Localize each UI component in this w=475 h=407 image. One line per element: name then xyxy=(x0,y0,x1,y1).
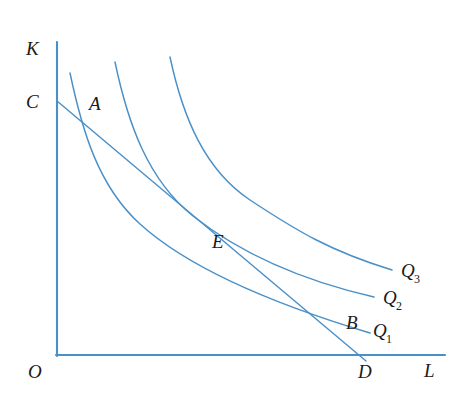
origin-label-o: O xyxy=(28,361,42,382)
curve-label-q2-subscript: 2 xyxy=(396,299,402,313)
curve-label-q3-subscript: 3 xyxy=(414,272,420,286)
point-label-d: D xyxy=(357,361,372,382)
axis-label-l: L xyxy=(423,360,435,381)
isoquant-curve-q3 xyxy=(170,57,392,270)
curve-label-q1: Q xyxy=(373,320,387,341)
curve-label-q3: Q xyxy=(401,260,415,281)
point-label-a: A xyxy=(87,93,101,114)
axis-label-k: K xyxy=(25,38,40,59)
curve-label-q2: Q xyxy=(383,287,397,308)
point-label-c: C xyxy=(26,91,39,112)
point-label-b: B xyxy=(346,312,358,333)
isoquant-curve-q1 xyxy=(70,73,370,333)
isoquant-curve-q2 xyxy=(115,62,374,297)
point-label-e: E xyxy=(211,231,224,252)
curve-label-q1-subscript: 1 xyxy=(386,332,392,346)
isoquant-isocost-figure: K L O C A E B D Q 3 Q 2 Q 1 xyxy=(0,0,475,407)
